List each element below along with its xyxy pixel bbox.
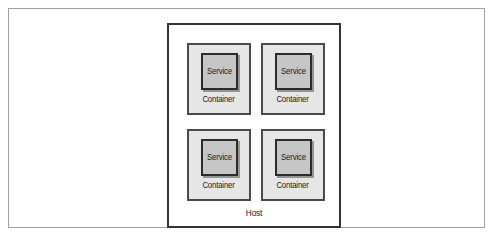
host-box: Service Container Service Container Serv… — [167, 23, 341, 228]
container-label: Container — [277, 181, 309, 190]
container-grid: Service Container Service Container Serv… — [187, 43, 325, 203]
figure-frame: Service Container Service Container Serv… — [8, 8, 485, 228]
service-box: Service — [201, 139, 238, 176]
host-label: Host — [176, 209, 332, 218]
container-label: Container — [203, 181, 235, 190]
service-label: Service — [207, 153, 232, 162]
service-box: Service — [201, 53, 238, 90]
service-label: Service — [281, 67, 306, 76]
container-box: Service Container — [187, 43, 251, 115]
container-box: Service Container — [261, 43, 325, 115]
container-box: Service Container — [261, 129, 325, 201]
service-box: Service — [275, 53, 312, 90]
service-box: Service — [275, 139, 312, 176]
container-label: Container — [203, 95, 235, 104]
service-label: Service — [207, 67, 232, 76]
container-box: Service Container — [187, 129, 251, 201]
service-label: Service — [281, 153, 306, 162]
container-label: Container — [277, 95, 309, 104]
